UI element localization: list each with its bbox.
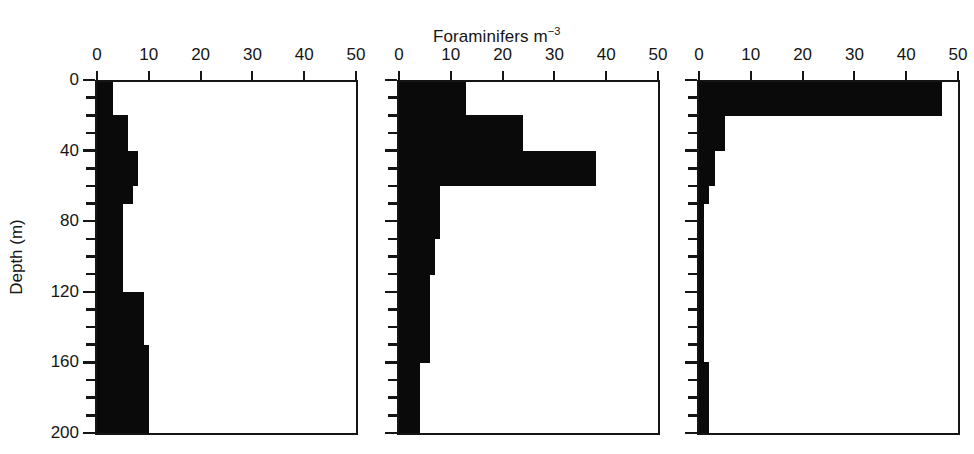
bar xyxy=(699,204,704,222)
y-axis-major-tick xyxy=(83,432,95,435)
y-axis-minor-tick xyxy=(388,185,397,188)
y-axis-minor-tick xyxy=(688,238,697,241)
bar xyxy=(97,186,133,204)
x-axis-tick xyxy=(200,71,202,80)
y-axis-major-tick xyxy=(385,361,397,364)
x-axis-tick xyxy=(398,71,400,80)
y-axis-minor-tick xyxy=(688,202,697,205)
bar xyxy=(399,239,435,257)
bar xyxy=(97,362,149,380)
bar xyxy=(399,115,523,133)
bar xyxy=(399,133,523,151)
x-axis-line-bottom xyxy=(697,433,961,435)
foraminifer-depth-profile-figure: Foraminifers m−3 Depth (m) 0102030405004… xyxy=(0,0,974,454)
chart-panel-2: 01020304050 xyxy=(0,0,974,454)
y-axis-major-tick xyxy=(83,291,95,294)
bar xyxy=(699,327,704,345)
y-axis-minor-tick xyxy=(86,202,95,205)
x-axis-tick xyxy=(957,71,959,80)
y-axis-major-tick xyxy=(385,291,397,294)
y-axis-minor-tick xyxy=(688,273,697,276)
bar xyxy=(97,80,113,98)
y-axis-minor-tick xyxy=(86,255,95,258)
bar xyxy=(399,151,596,169)
bar xyxy=(699,80,942,98)
bar xyxy=(399,309,430,327)
y-axis-minor-tick xyxy=(688,379,697,382)
bar xyxy=(399,345,430,363)
y-axis-tick-label: 200 xyxy=(51,423,79,443)
bar xyxy=(97,133,128,151)
y-axis-tick-label: 160 xyxy=(51,352,79,372)
bar xyxy=(399,274,430,292)
y-axis-major-tick xyxy=(685,220,697,223)
x-axis-tick xyxy=(657,71,659,80)
bar xyxy=(699,98,942,116)
bar xyxy=(699,362,709,380)
bar xyxy=(97,204,123,222)
chart-panel-1: 0102030405004080120160200 xyxy=(0,0,974,454)
x-axis-tick xyxy=(96,71,98,80)
x-axis-line-top xyxy=(95,80,359,82)
bar xyxy=(97,98,113,116)
y-axis-major-tick xyxy=(685,79,697,82)
bar xyxy=(97,151,138,169)
bar xyxy=(97,221,123,239)
y-axis-minor-tick xyxy=(388,326,397,329)
y-axis-minor-tick xyxy=(86,167,95,170)
bar xyxy=(399,257,435,275)
y-axis-minor-tick xyxy=(688,255,697,258)
bar xyxy=(399,168,596,186)
y-axis-major-tick xyxy=(385,79,397,82)
x-axis-line-top xyxy=(697,80,961,82)
y-axis-tick-label: 80 xyxy=(60,211,79,231)
bar xyxy=(399,398,420,416)
y-axis-minor-tick xyxy=(388,167,397,170)
bar xyxy=(699,115,725,133)
y-axis-major-tick xyxy=(83,220,95,223)
y-axis-minor-tick xyxy=(688,114,697,117)
figure-title: Foraminifers m−3 xyxy=(0,5,974,67)
bar xyxy=(699,345,704,363)
y-axis-minor-tick xyxy=(86,343,95,346)
x-axis-tick xyxy=(148,71,150,80)
bar xyxy=(97,115,128,133)
bar xyxy=(699,398,709,416)
bar xyxy=(699,133,725,151)
x-axis-tick xyxy=(450,71,452,80)
x-axis-tick xyxy=(303,71,305,80)
y-axis-tick-label: 40 xyxy=(60,141,79,161)
y-axis-minor-tick xyxy=(388,396,397,399)
bar xyxy=(699,292,704,310)
bar xyxy=(399,80,466,98)
y-axis-minor-tick xyxy=(86,96,95,99)
x-axis-tick xyxy=(750,71,752,80)
bar xyxy=(399,292,430,310)
y-axis-minor-tick xyxy=(688,414,697,417)
y-axis-minor-tick xyxy=(688,167,697,170)
y-axis-minor-tick xyxy=(86,326,95,329)
y-axis-minor-tick xyxy=(86,238,95,241)
bar xyxy=(699,151,715,169)
y-axis-minor-tick xyxy=(688,326,697,329)
right-axis-line xyxy=(356,80,358,435)
y-axis-major-tick xyxy=(83,149,95,152)
y-axis-minor-tick xyxy=(388,379,397,382)
x-axis-tick xyxy=(502,71,504,80)
bar xyxy=(699,221,704,239)
y-axis-minor-tick xyxy=(388,273,397,276)
x-axis-tick xyxy=(853,71,855,80)
y-axis-minor-tick xyxy=(86,132,95,135)
y-axis-minor-tick xyxy=(388,255,397,258)
y-axis-major-tick xyxy=(385,149,397,152)
chart-panel-3: 01020304050 xyxy=(0,0,974,454)
bar xyxy=(97,415,149,433)
bar xyxy=(699,380,709,398)
x-axis-line-bottom xyxy=(95,433,359,435)
bar xyxy=(97,257,123,275)
x-axis-tick xyxy=(802,71,804,80)
y-axis-minor-tick xyxy=(688,96,697,99)
bar xyxy=(399,221,440,239)
x-axis-line-top xyxy=(397,80,661,82)
y-axis-minor-tick xyxy=(688,132,697,135)
